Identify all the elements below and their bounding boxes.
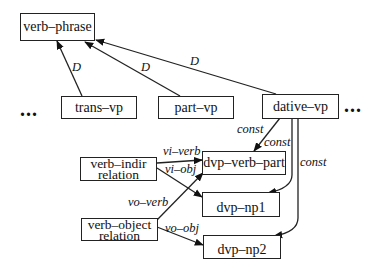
node-line-2: relation [98,169,139,180]
edge-dative-to-verb-phrase [96,40,276,94]
edge-part-to-verb-phrase [85,42,180,96]
node-line-2: relation [99,230,140,241]
ellipsis-right: ... [344,100,362,110]
edge-label-d-trans: D [72,61,81,74]
ellipsis-left: ... [20,104,38,114]
node-dvp-np2: dvp–np2 [203,235,281,259]
node-trans-vp: trans–vp [61,96,137,119]
node-dvp-verb-part: dvp–verb–part [202,151,286,175]
edge-label-const-verb-part: const [237,123,263,136]
edge-label-vi-verb: vi–verb [163,145,200,158]
node-verb-object-relation: verb–object relation [81,218,158,241]
node-verb-phrase: verb–phrase [20,13,95,41]
node-part-vp: part–vp [158,96,234,119]
node-dative-vp: dative–vp [262,94,339,119]
edge-label-vi-obj: vi–obj [165,163,196,176]
edge-label-vo-obj: vo–obj [165,222,199,235]
edge-label-d-part: D [141,61,150,74]
edge-label-const-np2: const [300,156,326,169]
edge-label-vo-verb: vo–verb [128,196,168,209]
edge-label-d-dative: D [190,55,199,68]
node-verb-indir-relation: verb–indir relation [80,157,157,181]
inheritance-diagram: verb–phrase trans–vp part–vp dative–vp v… [0,0,375,276]
edge-label-const-np1: const [264,136,290,149]
node-dvp-np1: dvp–np1 [202,192,280,217]
